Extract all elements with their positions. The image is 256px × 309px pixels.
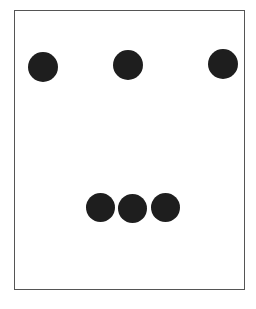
bottom-dot-3 bbox=[151, 193, 180, 222]
top-dot-3 bbox=[208, 49, 238, 79]
bottom-dot-2 bbox=[118, 194, 147, 223]
bottom-dot-1 bbox=[86, 193, 115, 222]
top-dot-1 bbox=[28, 52, 58, 82]
top-dot-2 bbox=[113, 50, 143, 80]
